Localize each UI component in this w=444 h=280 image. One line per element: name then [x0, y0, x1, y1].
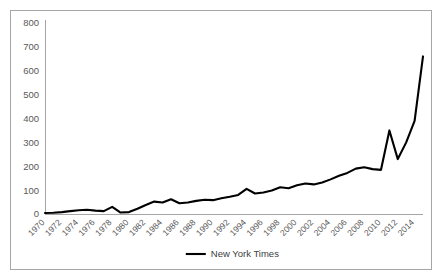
x-tick-label: 1996 [244, 217, 265, 238]
x-tick-label: 1990 [194, 217, 215, 238]
y-axis-tick-labels: 0100200300400500600700800 [23, 17, 39, 219]
x-tick-label: 1972 [43, 217, 64, 238]
x-tick-label: 1998 [261, 217, 282, 238]
x-tick-label: 2012 [379, 217, 400, 238]
x-tick-label: 2004 [312, 217, 333, 238]
line-chart: 0100200300400500600700800 19701972197419… [11, 11, 431, 269]
x-tick-label: 1974 [60, 217, 81, 238]
y-tick-label: 300 [23, 137, 39, 148]
x-tick-label: 2008 [345, 217, 366, 238]
y-tick-label: 800 [23, 17, 39, 28]
x-axis-tick-labels: 1970197219741976197819801982198419861988… [26, 217, 416, 238]
chart-frame: 0100200300400500600700800 19701972197419… [10, 10, 432, 270]
y-tick-label: 700 [23, 41, 39, 52]
x-tick-label: 1988 [177, 217, 198, 238]
chart-legend: New York Times [186, 248, 279, 259]
x-tick-label: 1984 [144, 217, 165, 238]
x-tick-label: 1994 [228, 217, 249, 238]
y-tick-label: 500 [23, 89, 39, 100]
series-lines [45, 56, 423, 213]
x-tick-label: 2010 [362, 217, 383, 238]
x-tick-label: 1980 [110, 217, 131, 238]
x-tick-label: 2002 [295, 217, 316, 238]
x-tick-label: 1970 [26, 217, 47, 238]
x-tick-label: 1976 [76, 217, 97, 238]
y-tick-label: 600 [23, 65, 39, 76]
x-tick-label: 1982 [127, 217, 148, 238]
legend-label: New York Times [211, 248, 279, 259]
x-tick-label: 1986 [160, 217, 181, 238]
y-tick-label: 400 [23, 113, 39, 124]
x-tick-label: 1992 [211, 217, 232, 238]
y-tick-label: 100 [23, 185, 39, 196]
x-tick-label: 2014 [396, 217, 417, 238]
data-series-line [45, 56, 423, 213]
x-tick-label: 2006 [328, 217, 349, 238]
y-tick-label: 200 [23, 161, 39, 172]
x-tick-label: 1978 [93, 217, 114, 238]
x-tick-label: 2000 [278, 217, 299, 238]
